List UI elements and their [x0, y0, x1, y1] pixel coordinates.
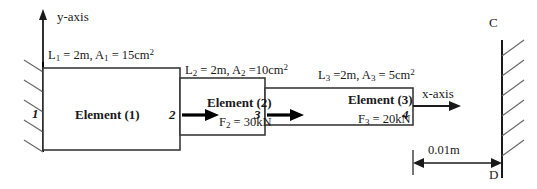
- element-1-L-symbol: L: [48, 48, 56, 62]
- y-axis-label: y-axis: [57, 10, 89, 23]
- element-2-L-value: = 2m,: [197, 63, 232, 77]
- element-3-A-symbol: A: [362, 68, 371, 82]
- x-axis-arrow: [413, 101, 461, 111]
- element-2-force-label: F2 = 30kN: [219, 116, 272, 130]
- node-label-2: 2: [169, 108, 176, 121]
- axial-bar-diagram: y-axis x-axis L1 = 2m, A1 = 15cm2 L2 = 2…: [0, 0, 537, 189]
- element-3-L-symbol: L: [318, 68, 326, 82]
- gap-dimension-label: 0.01m: [428, 144, 460, 157]
- element-1-name-label: Element (1): [75, 108, 140, 121]
- wall-point-d-label: D: [489, 168, 498, 181]
- element-1-A-superscript: 2: [150, 47, 155, 57]
- element-3-name-label: Element (3): [348, 93, 413, 106]
- element-2-name-label: Element (2): [207, 96, 272, 109]
- element-1-A-value: = 15cm: [109, 48, 150, 62]
- node-label-3: 3: [254, 108, 261, 121]
- y-axis-arrow: [39, 9, 47, 62]
- element-2-A-superscript: 2: [283, 62, 288, 72]
- element-3-L-value: =2m,: [330, 68, 362, 82]
- element-1-L-value: = 2m,: [60, 48, 95, 62]
- f2-value: = 30kN: [230, 115, 271, 129]
- element-3-A-superscript: 2: [410, 67, 415, 77]
- node-label-1: 1: [32, 107, 39, 120]
- node-label-4: 4: [402, 108, 409, 121]
- element-1-A-symbol: A: [95, 48, 104, 62]
- right-wall-support: [502, 40, 524, 178]
- f2-symbol: F: [219, 115, 226, 129]
- f3-symbol: F: [358, 112, 365, 126]
- wall-point-c-label: C: [489, 16, 498, 29]
- element-2-A-symbol: A: [232, 63, 241, 77]
- element-3-A-value: = 5cm: [375, 68, 410, 82]
- element-1-properties-label: L1 = 2m, A1 = 15cm2: [48, 48, 154, 63]
- element-3-properties-label: L3 =2m, A3 = 5cm2: [318, 68, 415, 83]
- element-2-L-symbol: L: [185, 63, 193, 77]
- element-2-properties-label: L2 = 2m, A2 =10cm2: [185, 63, 288, 78]
- element-2-A-value: =10cm: [246, 63, 284, 77]
- x-axis-label: x-axis: [422, 87, 454, 100]
